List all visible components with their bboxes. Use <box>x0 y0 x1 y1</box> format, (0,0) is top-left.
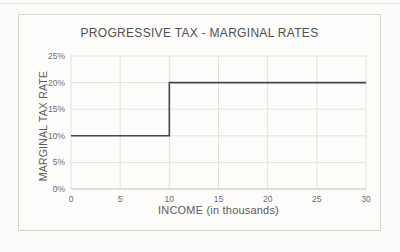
y-tick-label: 10% <box>19 131 65 141</box>
y-tick-label: 25% <box>19 51 65 61</box>
x-axis-title: INCOME (in thousands) <box>71 204 366 216</box>
y-tick-label: 5% <box>19 157 65 167</box>
y-tick-label: 20% <box>19 78 65 88</box>
y-tick-label: 0% <box>19 184 65 194</box>
y-tick-label: 15% <box>19 104 65 114</box>
x-tick-label: 20 <box>253 194 283 204</box>
x-tick-label: 10 <box>154 194 184 204</box>
chart-page: PROGRESSIVE TAX - MARGINAL RATES MARGINA… <box>0 0 400 252</box>
x-tick-label: 30 <box>351 194 381 204</box>
scan-artifact-line <box>0 3 400 4</box>
x-tick-label: 0 <box>56 194 86 204</box>
chart-frame: PROGRESSIVE TAX - MARGINAL RATES MARGINA… <box>18 14 381 231</box>
x-tick-label: 5 <box>105 194 135 204</box>
x-tick-label: 15 <box>204 194 234 204</box>
x-tick-label: 25 <box>302 194 332 204</box>
